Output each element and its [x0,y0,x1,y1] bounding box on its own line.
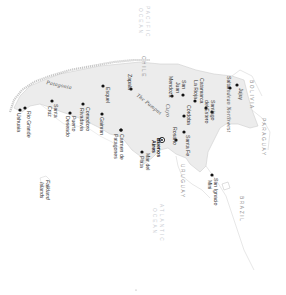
svg-text:Zapala: Zapala [127,74,133,90]
city-carmen-de-patagones[interactable]: Carmen de Patagones [113,128,125,159]
city-dot [181,93,184,96]
svg-text:Mini: Mini [207,180,213,190]
svg-text:Jujuy: Jujuy [238,88,244,101]
map-marker-dot [135,289,136,290]
svg-text:Patagones: Patagones [113,134,119,159]
city-dot [210,173,213,176]
svg-text:Córdoba: Córdoba [186,105,192,125]
svg-text:Rosario: Rosario [172,127,178,145]
city-dot [100,112,103,115]
border-paraguay [252,110,270,150]
island-falkland[interactable]: Falkland Islands [39,180,51,201]
city-mendoza[interactable]: Mendoza [168,76,174,98]
city-san-ignacio-mini[interactable]: San Ignacio Mini [207,173,219,205]
ocean-label-pacific: PACIFIC [145,6,150,39]
svg-text:Aires: Aires [151,140,157,153]
svg-text:Ushuaia: Ushuaia [16,113,22,132]
city-dot [23,106,26,109]
city-dot [140,150,143,153]
argentina-landmass [14,62,258,172]
city-salta[interactable]: Salta [226,76,232,90]
city-rio-grande[interactable]: Rio Grande [23,106,32,137]
country-label-uruguay: URUGUAY [180,164,185,199]
svg-text:Esquel: Esquel [105,87,111,103]
city-dot [50,99,53,102]
svg-text:Rio Grande: Rio Grande [26,111,32,138]
svg-text:Rivadavia: Rivadavia [79,108,85,131]
city-dot [68,111,71,114]
city-santiago-del-estero[interactable]: Santiago del Estero [204,100,216,123]
argentina-map[interactable]: PACIFIC OCEAN ATLANTIC OCEAN CHILE BOLIV… [0,0,286,295]
city-rosario[interactable]: Rosario [172,127,178,145]
svg-text:Juan: Juan [175,82,181,93]
svg-text:Gaiman: Gaiman [99,117,105,135]
country-label-bolivia: BOLIVIA [249,80,254,110]
svg-text:Deseado: Deseado [65,116,71,137]
svg-text:Mendoza: Mendoza [168,76,174,97]
svg-text:Salta: Salta [226,76,232,88]
city-ushuaia[interactable]: Ushuaia [16,108,22,132]
svg-text:Cruz: Cruz [47,106,53,117]
city-dot [119,128,122,131]
city-dot [182,130,185,133]
city-dot [101,84,104,87]
svg-text:La Rioja: La Rioja [193,80,199,99]
ocean-label-atlantic: ATLANTIC [159,204,164,243]
city-puerto-deseado[interactable]: Puerto Deseado [65,111,77,136]
svg-text:Santa Fe: Santa Fe [185,135,191,156]
ocean-label-atlantic-ocean: OCEAN [152,208,157,235]
country-label-brazil: BRAZIL [239,196,244,222]
city-zapala[interactable]: Zapala [127,74,133,91]
country-label-paraguay: PARAGUAY [261,118,266,157]
ocean-label-pacific-ocean: OCEAN [138,8,143,35]
region-label-andean: Andean Northwest [226,85,232,132]
city-dot [235,83,238,86]
city-dot [182,114,185,117]
svg-text:Islands: Islands [39,182,45,199]
country-label-chile: CHILE [141,56,146,78]
lake-outline [222,182,230,190]
region-label-cuyo: Cuyo [165,104,171,117]
city-dot [18,108,21,111]
city-dot [193,99,196,102]
city-dot [81,102,84,105]
svg-text:del Estero: del Estero [204,100,210,123]
svg-text:Plata: Plata [139,156,145,168]
